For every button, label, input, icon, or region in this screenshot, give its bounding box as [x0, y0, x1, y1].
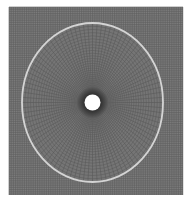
central-hole — [85, 95, 101, 111]
mesh-diagram — [0, 0, 190, 208]
